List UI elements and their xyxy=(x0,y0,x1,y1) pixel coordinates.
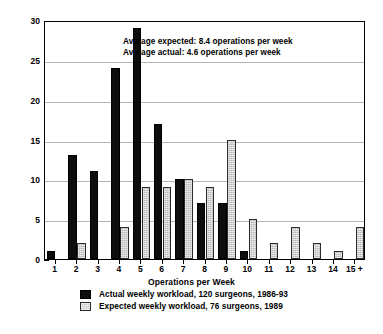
x-tick-label: 12 xyxy=(278,264,302,274)
y-tick-label: 30 xyxy=(18,17,40,25)
bar-expected xyxy=(206,187,214,259)
bar-actual xyxy=(68,155,76,259)
bar-expected xyxy=(142,187,150,259)
x-tick-label: 3 xyxy=(86,264,110,274)
bar-group xyxy=(45,22,66,259)
bar-group xyxy=(323,22,344,259)
legend-label-expected: Expected weekly workload, 76 surgeons, 1… xyxy=(99,301,283,311)
bar-actual xyxy=(47,251,55,259)
bar-actual xyxy=(175,179,183,259)
x-tick-label: 14 xyxy=(321,264,345,274)
x-tick-label: 15 + xyxy=(342,264,366,274)
x-tick-label: 5 xyxy=(128,264,152,274)
y-tick-label: 10 xyxy=(18,176,40,184)
legend-item-expected: Expected weekly workload, 76 surgeons, 1… xyxy=(0,300,383,312)
x-tick-label: 1 xyxy=(43,264,67,274)
x-tick-label: 10 xyxy=(235,264,259,274)
bar-expected xyxy=(120,227,128,259)
bar-actual xyxy=(197,203,205,259)
legend-label-actual: Actual weekly workload, 120 surgeons, 19… xyxy=(99,289,288,299)
annotation-text-block: Average expected: 8.4 operations per wee… xyxy=(123,37,293,58)
bar-expected xyxy=(249,219,257,259)
y-tick-label: 25 xyxy=(18,57,40,65)
x-tick-label: 8 xyxy=(193,264,217,274)
bar-group xyxy=(88,22,109,259)
bar-expected xyxy=(227,140,235,260)
bar-expected xyxy=(334,251,342,259)
legend-swatch-actual-icon xyxy=(80,290,91,299)
y-tick-mark xyxy=(44,260,49,261)
bar-expected xyxy=(270,243,278,259)
bar-actual xyxy=(218,203,226,259)
x-tick-label: 6 xyxy=(150,264,174,274)
annotation-line-actual: Average actual: 4.6 operations per week xyxy=(123,48,293,59)
chart-legend: Actual weekly workload, 120 surgeons, 19… xyxy=(0,288,383,312)
x-tick-label: 2 xyxy=(64,264,88,274)
x-tick-label: 9 xyxy=(214,264,238,274)
bar-actual xyxy=(240,251,248,259)
figure-container: Number of Consultants 051015202530 12345… xyxy=(0,0,383,334)
y-tick-label: 20 xyxy=(18,97,40,105)
x-tick-label: 13 xyxy=(300,264,324,274)
legend-item-actual: Actual weekly workload, 120 surgeons, 19… xyxy=(0,288,383,300)
x-tick-label: 7 xyxy=(171,264,195,274)
bar-expected xyxy=(356,227,364,259)
bar-actual xyxy=(90,171,98,259)
y-tick-label: 0 xyxy=(18,256,40,264)
bar-expected xyxy=(291,227,299,259)
bar-actual xyxy=(133,28,141,259)
bar-group xyxy=(345,22,366,259)
bar-actual xyxy=(111,68,119,259)
bar-actual xyxy=(154,124,162,259)
x-tick-label: 4 xyxy=(107,264,131,274)
annotation-line-expected: Average expected: 8.4 operations per wee… xyxy=(123,37,293,48)
legend-swatch-expected-icon xyxy=(80,302,91,311)
bar-expected xyxy=(77,243,85,259)
bar-expected xyxy=(313,243,321,259)
bar-group xyxy=(302,22,323,259)
y-tick-label: 15 xyxy=(18,137,40,145)
bar-expected xyxy=(163,187,171,259)
y-tick-label: 5 xyxy=(18,216,40,224)
x-tick-label: 11 xyxy=(257,264,281,274)
bar-expected xyxy=(184,179,192,259)
x-axis-title: Operations per Week xyxy=(0,277,383,287)
bar-group xyxy=(66,22,87,259)
